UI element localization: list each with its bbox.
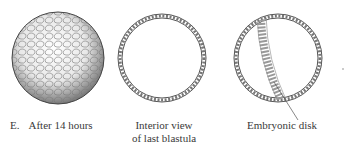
caption-interior-view: Interior view of last blastula	[124, 119, 204, 145]
blastula-cross-section	[118, 14, 206, 102]
stray-mark	[342, 68, 344, 70]
embryonic-disk-section	[234, 14, 322, 120]
caption-after-14-hours: E.After 14 hours	[10, 119, 93, 132]
panel-letter: E.	[10, 119, 19, 131]
blastula-sphere	[12, 12, 104, 104]
caption-line-2: of last blastula	[124, 132, 204, 145]
caption-text: After 14 hours	[28, 119, 92, 131]
caption-embryonic-disk: Embryonic disk	[232, 119, 332, 132]
caption-line-1: Interior view	[124, 119, 204, 132]
